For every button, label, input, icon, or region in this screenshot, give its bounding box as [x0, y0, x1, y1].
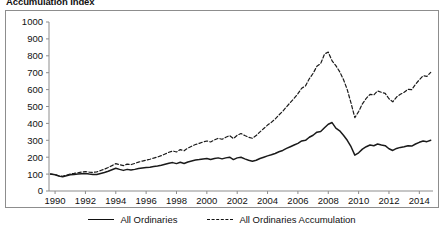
y-axis: 01002003004005006007008009001000: [22, 16, 49, 196]
legend-label: All Ordinaries Accumulation: [239, 214, 355, 225]
y-axis-tick-label: 0: [38, 185, 43, 196]
y-axis-tick-label: 200: [27, 152, 43, 163]
line-chart: 01002003004005006007008009001000 1990199…: [0, 0, 444, 235]
x-axis-tick-label: 2002: [227, 195, 248, 206]
y-axis-tick-label: 400: [27, 118, 43, 129]
legend-item-all-ordinaries: All Ordinaries: [88, 214, 177, 225]
x-axis-tick-label: 1992: [75, 195, 96, 206]
x-axis-tick-label: 2006: [287, 195, 308, 206]
y-axis-tick-label: 500: [27, 101, 43, 112]
x-axis-tick-label: 2000: [196, 195, 217, 206]
legend-label: All Ordinaries: [120, 214, 177, 225]
x-axis-tick-label: 2004: [257, 195, 278, 206]
x-axis-tick-label: 2010: [348, 195, 369, 206]
x-axis-tick-label: 1998: [166, 195, 187, 206]
x-axis-tick-label: 2012: [378, 195, 399, 206]
x-axis: 1990199219941996199820002002200420062008…: [45, 191, 433, 206]
x-axis-tick-label: 1994: [105, 195, 126, 206]
legend-swatch-dashed-icon: [207, 219, 233, 220]
y-axis-tick-label: 900: [27, 33, 43, 44]
series-layer: [51, 52, 431, 177]
series-solid: [51, 123, 431, 177]
y-axis-tick-label: 100: [27, 169, 43, 180]
y-axis-tick-label: 700: [27, 67, 43, 78]
y-axis-tick-label: 600: [27, 84, 43, 95]
y-axis-tick-label: 800: [27, 50, 43, 61]
y-axis-tick-label: 1000: [22, 16, 43, 27]
y-axis-tick-label: 300: [27, 135, 43, 146]
x-axis-tick-label: 2014: [409, 195, 430, 206]
legend-swatch-solid-icon: [88, 219, 114, 220]
chart-legend: All Ordinaries All Ordinaries Accumulati…: [0, 210, 444, 235]
chart-figure: Accumulation Index 010020030040050060070…: [0, 0, 444, 235]
legend-item-all-ordinaries-accumulation: All Ordinaries Accumulation: [207, 214, 355, 225]
x-axis-tick-label: 1990: [45, 195, 66, 206]
x-axis-tick-label: 2008: [318, 195, 339, 206]
x-axis-tick-label: 1996: [136, 195, 157, 206]
